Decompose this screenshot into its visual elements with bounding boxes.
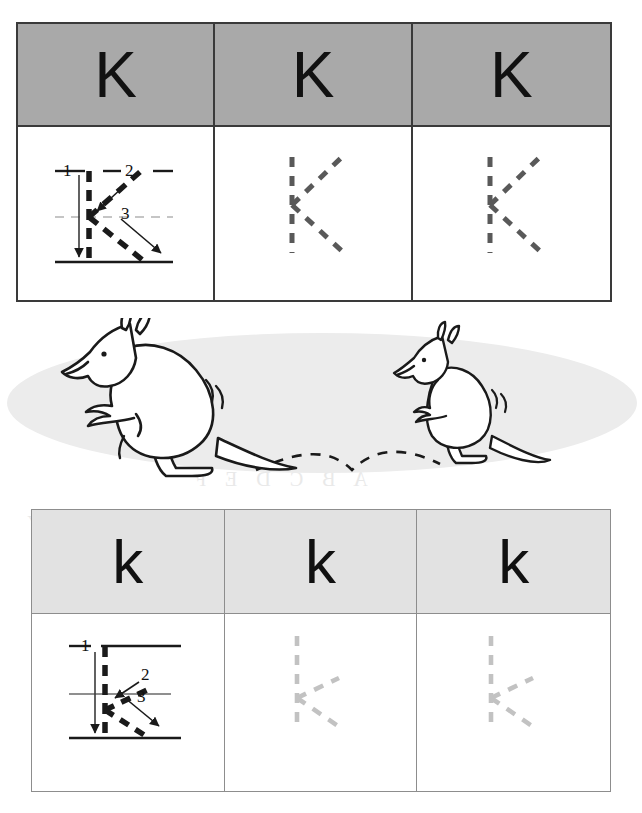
uppercase-model-cell-2: K xyxy=(215,24,412,127)
uppercase-trace-svg-2 xyxy=(258,149,368,269)
uppercase-model-letter-1: K xyxy=(94,43,137,107)
trace-upper-diagonal xyxy=(491,678,533,698)
lowercase-model-letter-3: k xyxy=(498,531,529,593)
lowercase-stroke-guide: 1 2 3 xyxy=(53,628,203,762)
uppercase-stroke-guide-svg: 1 2 3 xyxy=(41,149,191,279)
trace-lower-diagonal xyxy=(292,205,344,253)
uppercase-model-letter-3: K xyxy=(490,43,533,107)
uppercase-trace-cell-2[interactable] xyxy=(215,127,412,300)
lowercase-model-cell-2: k xyxy=(225,510,418,614)
uppercase-trace-svg-3 xyxy=(456,149,566,269)
lowercase-model-letter-2: k xyxy=(305,531,336,593)
arrow-stroke-2 xyxy=(97,187,123,211)
trace-lower-diagonal xyxy=(491,698,535,728)
lowercase-practice-table: k k k xyxy=(31,509,611,792)
trace-lower-diagonal xyxy=(490,205,542,253)
kangaroo-illustration xyxy=(0,318,642,498)
uppercase-practice-table: K K K xyxy=(16,22,612,302)
uppercase-model-cell-1: K xyxy=(18,24,215,127)
stroke-path-3-lower-diagonal xyxy=(105,710,149,738)
uppercase-trace-glyph-3 xyxy=(456,149,566,273)
uppercase-stroke-guide-cell[interactable]: 1 2 3 xyxy=(18,127,215,300)
head-large xyxy=(62,324,136,387)
lowercase-trace-cell-2[interactable] xyxy=(225,614,418,791)
ear-small-left xyxy=(438,322,445,340)
lowercase-stroke-guide-cell[interactable]: 1 2 3 xyxy=(32,614,225,791)
trace-upper-diagonal xyxy=(292,157,342,205)
stroke-number-1: 1 xyxy=(81,636,90,655)
eye-small xyxy=(422,358,426,362)
stroke-number-2: 2 xyxy=(141,665,150,684)
lowercase-stroke-guide-svg: 1 2 3 xyxy=(53,628,203,758)
stroke-number-3: 3 xyxy=(137,687,146,706)
lowercase-model-letter-1: k xyxy=(112,531,143,593)
uppercase-trace-glyph-2 xyxy=(258,149,368,273)
trace-upper-diagonal xyxy=(297,678,339,698)
ear-large-right xyxy=(136,318,150,334)
stroke-path-3-lower-diagonal xyxy=(89,217,145,262)
eye-large xyxy=(101,351,106,356)
arrow-stroke-2 xyxy=(115,682,139,698)
lowercase-model-cell-3: k xyxy=(417,510,610,614)
trace-upper-diagonal xyxy=(490,157,540,205)
trace-lower-diagonal xyxy=(297,698,341,728)
stroke-number-3: 3 xyxy=(121,204,130,223)
lowercase-trace-svg-2 xyxy=(265,628,375,748)
stroke-number-1: 1 xyxy=(63,161,72,180)
lowercase-trace-svg-3 xyxy=(459,628,569,748)
lowercase-trace-glyph-2 xyxy=(265,628,375,752)
uppercase-stroke-guide: 1 2 3 xyxy=(41,149,191,283)
stroke-number-2: 2 xyxy=(125,161,134,180)
lowercase-model-cell-1: k xyxy=(32,510,225,614)
uppercase-trace-cell-3[interactable] xyxy=(413,127,610,300)
uppercase-model-letter-2: K xyxy=(292,43,335,107)
uppercase-model-cell-3: K xyxy=(413,24,610,127)
lowercase-trace-cell-3[interactable] xyxy=(417,614,610,791)
lowercase-trace-glyph-3 xyxy=(459,628,569,752)
kangaroo-illustration-svg xyxy=(0,318,642,498)
